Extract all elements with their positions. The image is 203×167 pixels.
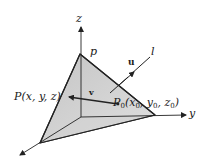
point-P0-y: , y <box>140 96 153 109</box>
z-axis-label: z <box>76 13 82 24</box>
plane-diagram <box>0 0 203 167</box>
point-P-label: P(x, y, z) <box>14 91 61 102</box>
point-P0-z: , z <box>158 96 171 109</box>
point-P0-close: ) <box>175 96 179 109</box>
point-P0-x: (x <box>125 96 136 109</box>
y-axis-label: y <box>189 108 195 119</box>
vertex-p-label: p <box>90 46 97 57</box>
line-l-label: l <box>151 46 155 57</box>
vector-v-label: v <box>89 88 94 96</box>
point-P0-label: P0(x0, y0, z0) <box>113 97 179 110</box>
vector-u-label: u <box>128 58 135 67</box>
